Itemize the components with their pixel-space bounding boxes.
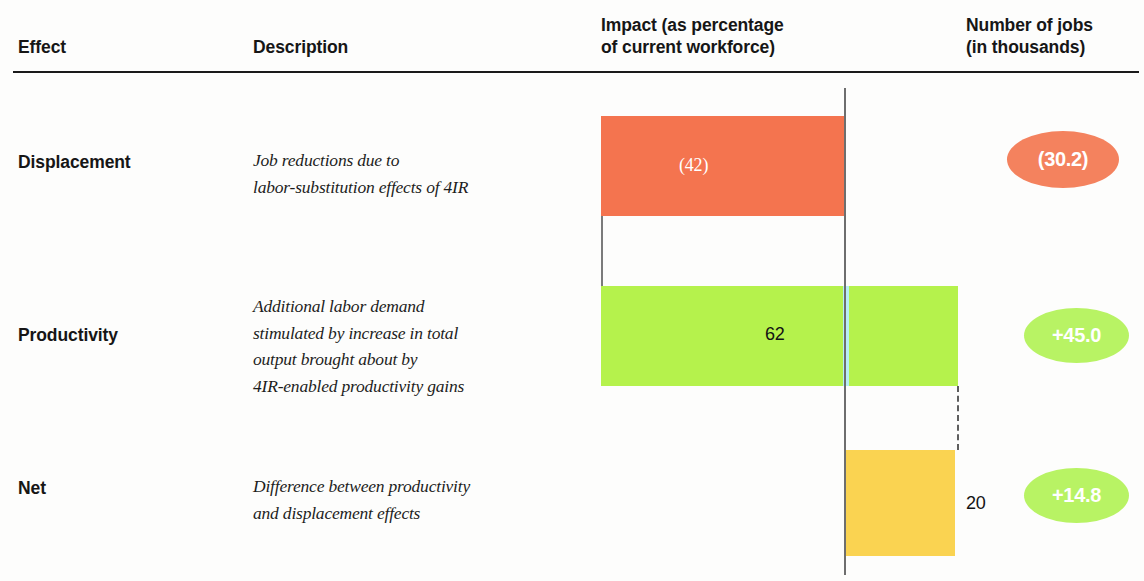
zero-axis-line	[844, 88, 846, 575]
bar-value-net: 20	[966, 493, 986, 514]
connector-productivity-to-net	[957, 386, 959, 450]
waterfall-chart: (42) 62 20	[0, 0, 1144, 581]
bar-displacement	[601, 116, 845, 216]
bar-value-productivity: 62	[765, 324, 785, 345]
jobs-badge-productivity: +45.0	[1024, 308, 1129, 363]
connector-displacement-to-productivity	[601, 216, 603, 286]
jobs-badge-net: +14.8	[1024, 468, 1129, 523]
chart-page: Effect Description Impact (as percentage…	[0, 0, 1144, 581]
bar-value-displacement: (42)	[679, 155, 708, 176]
bar-net	[845, 450, 955, 556]
jobs-badge-displacement: (30.2)	[1007, 131, 1119, 188]
